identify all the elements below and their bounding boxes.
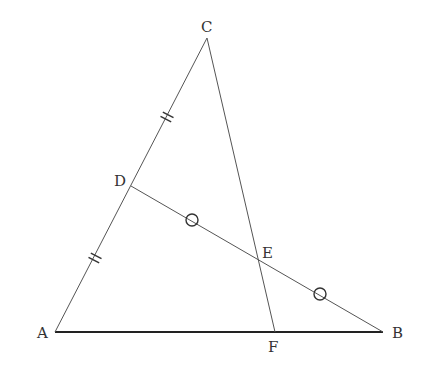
- segments: [55, 38, 383, 332]
- segment-db: [131, 186, 383, 332]
- double-tick-mark-icon: [89, 257, 100, 263]
- label-point-a: A: [36, 324, 48, 342]
- label-point-e: E: [262, 244, 273, 262]
- circle-mark-icon: [314, 288, 326, 300]
- label-point-c: C: [201, 18, 212, 36]
- double-tick-mark-icon: [91, 253, 102, 259]
- segment-ac: [55, 38, 207, 332]
- equal-length-marks: [89, 112, 326, 300]
- segment-cf: [207, 38, 275, 332]
- circle-mark-icon: [186, 214, 198, 226]
- point-labels: A B C D E F: [36, 18, 403, 356]
- label-point-d: D: [114, 172, 126, 190]
- label-point-f: F: [268, 338, 278, 356]
- geometry-diagram: A B C D E F: [0, 0, 431, 385]
- label-point-b: B: [392, 324, 403, 342]
